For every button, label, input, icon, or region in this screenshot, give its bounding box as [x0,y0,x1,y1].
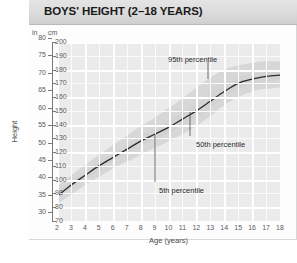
y-axis-label-inches: 35 [23,191,46,198]
gridline-vertical [71,42,72,221]
y-axis-label-cm: 170 [55,79,67,86]
y-axis-unit-cm: cm [48,29,57,36]
gridline-horizontal [57,111,280,112]
y-axis-label-cm: 130 [55,134,67,141]
y-axis-label-cm: 200 [55,38,67,45]
growth-chart-figure: BOYS' HEIGHT (2–18 YEARS) in cm Height A… [0,0,297,263]
y-axis-label-inches: 45 [23,156,46,163]
annotation-95th-percentile: 95th percentile [168,55,217,64]
y-axis-label-inches: 80 [23,34,46,41]
gridline-vertical [210,42,211,221]
y-axis-tick-inches [48,195,52,196]
y-axis-label-inches: 60 [23,104,46,111]
y-axis-label-cm: 70 [55,217,63,224]
y-axis-tick-inches [48,177,52,178]
y-axis-tick-inches [48,125,52,126]
gridline-vertical [85,42,87,221]
gridline-vertical [224,42,226,221]
annotation-5th-percentile: 5th percentile [159,186,204,195]
x-axis-label: 3 [64,224,78,231]
page-title: BOYS' HEIGHT (2–18 YEARS) [44,5,203,17]
y-axis-label-cm: 90 [55,189,63,196]
gridline-vertical [127,42,128,221]
x-axis-label: 7 [120,224,134,231]
x-axis-label: 14 [217,224,231,231]
x-axis-label: 13 [203,224,217,231]
x-axis-label: 17 [259,224,273,231]
y-axis-label-inches: 40 [23,173,46,180]
x-axis-label: 12 [189,224,203,231]
x-axis-label: 10 [162,224,176,231]
gridline-horizontal [57,125,280,127]
y-axis-tick-inches [48,73,52,74]
gridline-horizontal [57,166,280,167]
x-axis-label: 8 [134,224,148,231]
y-axis-label-cm: 140 [55,121,67,128]
gridline-horizontal [57,138,280,139]
gridline-horizontal [57,42,280,44]
gridline-horizontal [57,83,280,84]
x-axis-label: 5 [92,224,106,231]
x-axis-label: 9 [148,224,162,231]
x-axis-label: 15 [231,224,245,231]
x-axis-label: 4 [78,224,92,231]
gridline-horizontal [57,207,280,209]
y-axis-label-cm: 180 [55,66,67,73]
gridline-horizontal [57,70,280,72]
y-axis-tick-inches [48,108,52,109]
y-axis-tick-inches [48,38,52,39]
chart-title-bar: BOYS' HEIGHT (2–18 YEARS) [29,0,297,25]
x-axis-title: Age (years) [57,236,280,245]
annotation-50th-percentile: 50th percentile [196,140,245,149]
y-axis-label-inches: 75 [23,51,46,58]
y-axis-label-cm: 160 [55,93,67,100]
x-axis-label: 11 [175,224,189,231]
y-axis-tick-inches [48,143,52,144]
gridline-vertical [99,42,100,221]
gridline-horizontal [57,152,280,154]
y-axis-label-inches: 55 [23,121,46,128]
y-axis-tick-inches [48,160,52,161]
gridline-horizontal [57,180,280,182]
y-axis-label-inches: 70 [23,69,46,76]
y-axis-tick-inches [48,55,52,56]
gridline-vertical [113,42,115,221]
y-axis-cm-spine [52,42,53,221]
y-axis-label-inches: 50 [23,139,46,146]
y-axis-label-cm: 150 [55,107,67,114]
gridline-vertical [155,42,156,221]
x-axis-label: 2 [50,224,64,231]
y-axis-tick-inches [48,90,52,91]
y-axis-label-cm: 100 [55,176,67,183]
x-axis-label: 16 [245,224,259,231]
gridline-horizontal [57,97,280,99]
y-axis-label-cm: 190 [55,52,67,59]
x-axis-label: 6 [106,224,120,231]
y-axis-label-cm: 120 [55,148,67,155]
y-axis-label-inches: 30 [23,208,46,215]
y-axis-label-cm: 110 [55,162,66,169]
gridline-vertical [252,42,254,221]
x-axis-label: 18 [273,224,287,231]
gridline-vertical [238,42,239,221]
y-axis-label-inches: 65 [23,86,46,93]
y-axis-tick-inches [48,212,52,213]
y-axis-title: Height [10,117,19,145]
gridline-vertical [141,42,143,221]
y-axis-label-cm: 80 [55,203,63,210]
gridline-vertical [266,42,267,221]
